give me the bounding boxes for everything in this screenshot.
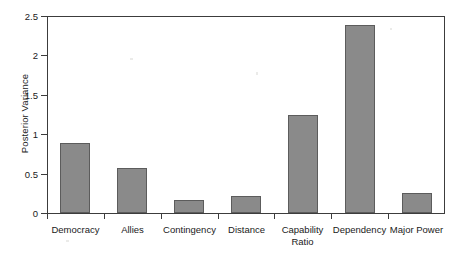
- bar: [288, 115, 318, 213]
- x-tick-mark: [104, 214, 105, 219]
- y-tick-label-wrap: 2: [0, 55, 38, 56]
- y-tick-mark: [41, 95, 47, 96]
- bar: [231, 196, 261, 213]
- x-category-label: Contingency: [161, 224, 218, 236]
- x-tick-mark: [388, 214, 389, 219]
- bar: [402, 193, 432, 213]
- x-tick-mark: [274, 214, 275, 219]
- y-tick-label: 1.5: [4, 89, 38, 100]
- bar: [60, 143, 90, 213]
- plot-area: [47, 16, 445, 213]
- y-tick-label-wrap: 0.5: [0, 174, 38, 175]
- bar: [174, 200, 204, 213]
- y-tick-mark: [41, 55, 47, 56]
- y-tick-label: 1: [4, 129, 38, 140]
- x-tick-mark: [331, 214, 332, 219]
- x-tick-mark: [161, 214, 162, 219]
- y-tick-label-wrap: 1: [0, 134, 38, 135]
- y-tick-label: 0.5: [4, 168, 38, 179]
- y-tick-mark: [41, 16, 47, 17]
- bar: [117, 168, 147, 213]
- y-tick-label-wrap: 2.5: [0, 16, 38, 17]
- y-tick-label: 0: [4, 208, 38, 219]
- x-category-label: Major Power: [388, 224, 445, 236]
- y-tick-label: 2.5: [4, 11, 38, 22]
- y-axis-line: [47, 16, 48, 214]
- x-axis-line: [47, 213, 445, 214]
- y-tick-label-wrap: 0: [0, 213, 38, 214]
- y-tick-label: 2: [4, 50, 38, 61]
- y-tick-label-wrap: 1.5: [0, 95, 38, 96]
- x-category-label: Dependency: [331, 224, 388, 236]
- scan-speck: [66, 240, 69, 242]
- x-category-label: Democracy: [47, 224, 104, 236]
- x-category-label: Distance: [218, 224, 275, 236]
- bar-chart-figure: Posterior Variance 00.511.522.5 Democrac…: [0, 0, 459, 261]
- bar: [345, 25, 375, 213]
- y-axis-title: Posterior Variance: [19, 44, 30, 184]
- x-tick-mark: [47, 214, 48, 219]
- x-tick-mark: [218, 214, 219, 219]
- y-tick-mark: [41, 134, 47, 135]
- x-category-label: Capability Ratio: [274, 224, 331, 247]
- x-category-label: Allies: [104, 224, 161, 236]
- y-tick-mark: [41, 174, 47, 175]
